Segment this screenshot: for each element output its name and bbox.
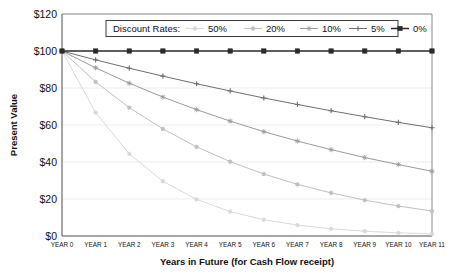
x-tick-label: YEAR 8 [320,241,343,248]
y-tick-label: $40 [39,156,57,168]
data-point-marker [430,232,434,236]
x-tick-label: YEAR 0 [51,241,74,248]
data-point-marker [396,162,401,167]
data-point-marker [262,218,266,222]
y-tick-label: $20 [39,193,57,205]
data-point-marker [94,111,98,115]
data-point-marker [306,26,311,31]
data-point-marker [262,49,266,53]
x-tick-label: YEAR 3 [152,241,175,248]
y-axis-title: Present Value [8,94,19,156]
data-point-marker [396,231,400,235]
y-tick-label: $80 [39,82,57,94]
data-point-marker [251,27,255,31]
data-point-marker [193,27,197,31]
data-point-marker [262,172,266,176]
legend-label: 50% [208,23,228,34]
x-tick-label: YEAR 7 [286,241,309,248]
data-point-marker [363,49,367,53]
legend-label: 10% [322,23,342,34]
data-point-marker [94,80,98,84]
data-point-marker [161,127,165,131]
data-point-marker [396,204,400,208]
data-point-marker [228,210,232,214]
data-point-marker [329,227,333,231]
data-point-marker [60,49,64,53]
legend-label: 0% [413,23,427,34]
x-tick-label: YEAR 11 [419,241,445,248]
y-tick-label: $100 [34,45,58,57]
legend-label: 5% [371,23,385,34]
present-value-discount-chart: $0$20$40$60$80$100$120 YEAR 0YEAR 1YEAR … [0,0,460,279]
x-tick-label: YEAR 10 [385,241,412,248]
y-tick-label: $60 [39,119,57,131]
data-point-marker [328,147,333,152]
data-point-marker [363,198,367,202]
data-point-marker [161,179,165,183]
data-point-marker [93,49,97,53]
data-point-marker [228,49,232,53]
data-point-marker [329,191,333,195]
x-tick-label: YEAR 2 [118,241,141,248]
chart-legend: Discount Rates: 50%20%10%5%0% [106,21,427,37]
x-tick-label: YEAR 5 [219,241,242,248]
legend-label: 20% [266,23,286,34]
x-axis-title: Years in Future (for Cash Flow receipt) [160,256,334,267]
data-point-marker [430,49,434,53]
chart-background [0,0,460,279]
data-point-marker [296,182,300,186]
data-point-marker [362,155,367,160]
x-tick-label: YEAR 4 [185,241,208,248]
data-point-marker [398,26,402,30]
data-point-marker [127,152,131,156]
legend-title: Discount Rates: [113,23,180,34]
data-point-marker [228,119,233,124]
data-point-marker [127,106,131,110]
data-point-marker [429,169,434,174]
data-point-marker [160,94,165,99]
data-point-marker [295,49,299,53]
data-point-marker [396,49,400,53]
data-point-marker [93,65,98,70]
x-tick-label: YEAR 9 [353,241,376,248]
data-point-marker [296,223,300,227]
data-point-marker [194,49,198,53]
data-point-marker [329,49,333,53]
data-point-marker [195,197,199,201]
data-point-marker [295,138,300,143]
chart-canvas: $0$20$40$60$80$100$120 YEAR 0YEAR 1YEAR … [0,0,460,279]
data-point-marker [127,49,131,53]
data-point-marker [194,107,199,112]
data-point-marker [430,209,434,213]
x-tick-label: YEAR 1 [84,241,107,248]
x-tick-label: YEAR 6 [252,241,275,248]
y-tick-label: $120 [34,8,58,20]
data-point-marker [195,145,199,149]
data-point-marker [261,129,266,134]
data-point-marker [228,160,232,164]
data-point-marker [363,229,367,233]
data-point-marker [127,81,132,86]
data-point-marker [161,49,165,53]
